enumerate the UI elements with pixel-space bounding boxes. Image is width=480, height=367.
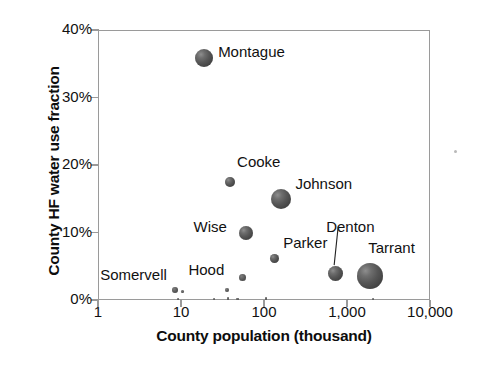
x-tick-label: 1,000	[302, 303, 392, 320]
data-point-minor[interactable]	[265, 297, 267, 299]
data-point-cooke[interactable]	[225, 177, 235, 187]
point-label-denton: Denton	[326, 219, 374, 234]
point-label-cooke: Cooke	[237, 154, 280, 169]
y-tick-label: 40%	[34, 20, 92, 37]
y-tick-label: 20%	[34, 155, 92, 172]
x-tick-label: 10,000	[385, 303, 475, 320]
data-point-tarrant[interactable]	[357, 263, 383, 289]
x-tick-label: 10	[136, 303, 226, 320]
data-point-minor[interactable]	[372, 298, 374, 300]
point-label-tarrant: Tarrant	[368, 240, 415, 255]
data-point-denton[interactable]	[328, 266, 343, 281]
data-point-parker[interactable]	[270, 254, 279, 263]
point-label-somervell: Somervell	[100, 267, 167, 282]
bubble-chart: County HF water use fraction County popu…	[0, 0, 480, 367]
y-tick-label: 10%	[34, 223, 92, 240]
y-tick-mark	[91, 29, 99, 30]
data-point-wise[interactable]	[239, 226, 253, 240]
data-point-minor[interactable]	[236, 298, 238, 300]
y-tick-label: 30%	[34, 88, 92, 105]
point-label-wise: Wise	[194, 219, 227, 234]
point-label-johnson: Johnson	[295, 176, 352, 191]
x-tick-label: 100	[219, 303, 309, 320]
point-label-parker: Parker	[283, 235, 327, 250]
x-axis-title: County population (thousand)	[98, 327, 430, 345]
point-label-montague: Montague	[218, 44, 285, 59]
scan-speck	[454, 150, 457, 153]
point-label-hood: Hood	[188, 262, 224, 277]
y-tick-mark	[91, 164, 99, 165]
y-tick-mark	[91, 232, 99, 233]
x-tick-label: 1	[53, 303, 143, 320]
y-tick-mark	[91, 97, 99, 98]
data-point-somervell[interactable]	[172, 287, 178, 293]
